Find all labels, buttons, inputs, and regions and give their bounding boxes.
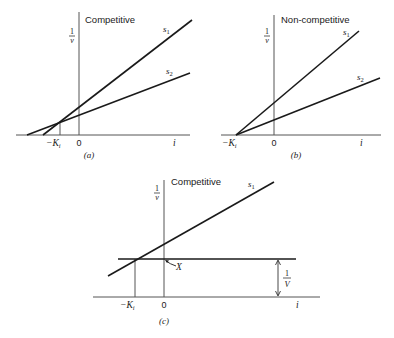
panel-a-ylabel-den: v (70, 36, 74, 45)
panel-c-ylabel-den: v (155, 193, 159, 202)
panel-b-title: Non-competitive (281, 14, 350, 25)
panel-c-point-x-label: X (175, 262, 183, 272)
panel-a-caption: (a) (84, 150, 95, 160)
panel-a-origin-label: 0 (76, 138, 81, 148)
panel-c-vmax-num: 1 (285, 269, 289, 278)
panel-b-origin-label: 0 (271, 138, 276, 148)
panel-a-s2-label: s2 (166, 66, 173, 77)
panel-a-line-s1 (43, 20, 192, 135)
panel-c-vmax-den: V (284, 279, 291, 289)
panel-c-line-s1 (108, 182, 274, 276)
panel-a-line-s2 (27, 73, 190, 135)
panel-c: X 1 V Competitive 1 v s1 −Ki 0 i (c) (93, 176, 320, 326)
panel-c-ylabel-num: 1 (155, 184, 159, 193)
panel-b-x-label: i (360, 138, 363, 148)
panel-b-line-s1 (236, 31, 359, 135)
panel-b-line-s2 (236, 78, 380, 135)
enzyme-inhibition-diagram: Competitive 1 v s1 s2 −Ki 0 i (a) Non-co… (0, 0, 394, 338)
panel-a-ylabel-num: 1 (70, 27, 74, 36)
panel-b: Non-competitive 1 v s1 s2 −Ki 0 i (b) (221, 14, 381, 160)
panel-c-caption: (c) (159, 316, 169, 326)
panel-b-ylabel-num: 1 (265, 27, 269, 36)
panel-c-s1-label: s1 (248, 179, 255, 190)
panel-c-ki-label: −Ki (120, 300, 135, 311)
panel-a-x-label: i (173, 138, 176, 148)
panel-a-ki-label: −Ki (46, 138, 61, 149)
panel-b-s2-label: s2 (357, 72, 364, 83)
panel-b-ylabel-den: v (265, 36, 269, 45)
panel-c-origin-label: 0 (161, 300, 166, 310)
panel-b-caption: (b) (291, 150, 302, 160)
panel-a: Competitive 1 v s1 s2 −Ki 0 i (a) (16, 12, 192, 160)
panel-b-s1-label: s1 (343, 27, 350, 38)
panel-c-title: Competitive (171, 176, 221, 187)
panel-a-title: Competitive (85, 14, 135, 25)
panel-b-ki-label: −Ki (222, 138, 237, 149)
panel-c-x-label: i (296, 300, 299, 310)
panel-a-s1-label: s1 (163, 24, 170, 35)
